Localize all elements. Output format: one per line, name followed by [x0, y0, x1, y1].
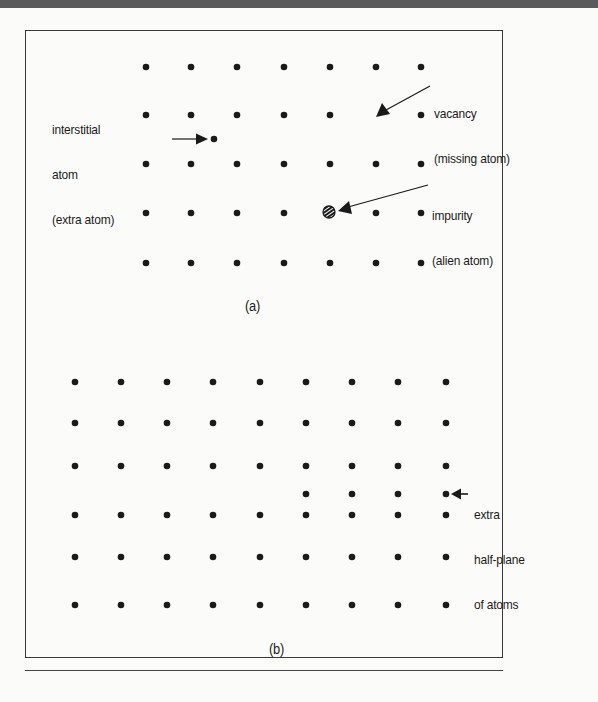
atom [443, 602, 450, 609]
atom [349, 420, 356, 427]
atom [257, 602, 264, 609]
atom [303, 554, 310, 561]
atom [395, 602, 402, 609]
atom [234, 161, 241, 168]
atom [281, 210, 288, 217]
impurity-atom [323, 206, 335, 218]
atom [188, 112, 195, 119]
atom [257, 554, 264, 561]
atom [373, 161, 380, 168]
half-plane-atom [395, 491, 402, 498]
atom [303, 420, 310, 427]
vacancy-label-line1: vacancy [434, 106, 510, 121]
atom [188, 64, 195, 71]
atom [349, 512, 356, 519]
atom [418, 161, 425, 168]
atom [143, 112, 150, 119]
atom [210, 463, 217, 470]
impurity-label-line2: (alien atom) [432, 253, 493, 268]
atom [281, 64, 288, 71]
atom [164, 554, 171, 561]
panel-a-lattice [143, 64, 425, 267]
atom [164, 602, 171, 609]
atom [72, 379, 79, 386]
half-plane-label-line3: of atoms [474, 597, 525, 612]
atom [118, 420, 125, 427]
panel-b-lattice [72, 379, 450, 609]
atom [210, 602, 217, 609]
atom [443, 554, 450, 561]
atom [327, 64, 334, 71]
atom [257, 420, 264, 427]
half-plane-label-line2: half-plane [474, 552, 525, 567]
atom [395, 379, 402, 386]
impurity-label-line1: impurity [432, 208, 493, 223]
atom [418, 64, 425, 71]
atom [349, 602, 356, 609]
atom [418, 112, 425, 119]
atom [395, 554, 402, 561]
atom [395, 512, 402, 519]
atom [257, 463, 264, 470]
atom [443, 512, 450, 519]
half-plane-label: extra half-plane of atoms [474, 477, 525, 627]
atom [164, 379, 171, 386]
atom [373, 64, 380, 71]
atom [327, 112, 334, 119]
atom [72, 463, 79, 470]
atom [303, 512, 310, 519]
half-plane-atom [349, 491, 356, 498]
interstitial-label-line3: (extra atom) [52, 212, 114, 227]
interstitial-label-line2: atom [52, 167, 114, 182]
atom [188, 260, 195, 267]
atom [373, 210, 380, 217]
atom [118, 463, 125, 470]
atom [210, 420, 217, 427]
atom [143, 260, 150, 267]
atom [327, 260, 334, 267]
atom [257, 379, 264, 386]
atom [349, 554, 356, 561]
interstitial-atom [211, 136, 218, 143]
atom [303, 463, 310, 470]
atom [349, 379, 356, 386]
atom [72, 420, 79, 427]
atom [257, 512, 264, 519]
atom [281, 112, 288, 119]
atom [418, 210, 425, 217]
atom [72, 554, 79, 561]
atom [395, 463, 402, 470]
atom [281, 260, 288, 267]
atom [164, 463, 171, 470]
atom [143, 161, 150, 168]
impurity-arrow-icon [338, 185, 428, 214]
atom [443, 463, 450, 470]
atom [210, 554, 217, 561]
interstitial-label: interstitial atom (extra atom) [52, 92, 114, 242]
half-plane-atom [303, 491, 310, 498]
panel-a-label: (a) [245, 299, 260, 314]
atom [234, 210, 241, 217]
vacancy-label: vacancy (missing atom) [434, 76, 510, 181]
atom [443, 420, 450, 427]
atom [234, 64, 241, 71]
atom [188, 210, 195, 217]
atom [72, 512, 79, 519]
atom [327, 161, 334, 168]
atom [210, 512, 217, 519]
atom [118, 602, 125, 609]
atom [281, 161, 288, 168]
panel-b-label: (b) [269, 642, 284, 657]
atom [164, 420, 171, 427]
atom [303, 379, 310, 386]
atom [72, 602, 79, 609]
atom [143, 210, 150, 217]
atom [303, 602, 310, 609]
interstitial-label-line1: interstitial [52, 122, 114, 137]
atom [118, 379, 125, 386]
atom [349, 463, 356, 470]
atom [443, 379, 450, 386]
atom [395, 420, 402, 427]
impurity-label: impurity (alien atom) [432, 178, 493, 283]
vacancy-label-line2: (missing atom) [434, 151, 510, 166]
